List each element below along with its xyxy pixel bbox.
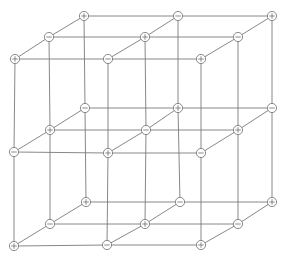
depth-edge (201, 37, 238, 59)
vertical-edge (178, 108, 180, 202)
cation-plus-icon (81, 197, 90, 206)
depth-edge (238, 202, 272, 224)
anion-minus-icon (45, 219, 54, 228)
anion-minus-icon (267, 103, 276, 112)
vertical-edge (49, 37, 50, 130)
cation-plus-icon (140, 32, 149, 41)
depth-edge (145, 16, 178, 37)
vertical-edge (145, 37, 146, 130)
cation-plus-icon (10, 54, 19, 63)
depth-edge (50, 108, 85, 130)
depth-edge (238, 108, 272, 130)
anion-minus-icon (103, 54, 112, 63)
crystal-lattice-diagram (0, 0, 287, 257)
cation-plus-icon (140, 219, 149, 228)
anion-minus-icon (80, 103, 89, 112)
depth-edge (107, 224, 145, 245)
depth-edge (14, 224, 50, 246)
anion-minus-icon (9, 147, 18, 156)
vertical-edge (107, 153, 108, 245)
cation-plus-icon (267, 11, 276, 20)
depth-edge (238, 16, 272, 37)
depth-edge (201, 130, 238, 153)
cation-plus-icon (196, 54, 205, 63)
cation-plus-icon (103, 148, 112, 157)
cation-plus-icon (45, 125, 54, 134)
depth-edge (201, 224, 238, 245)
anion-minus-icon (173, 11, 182, 20)
vertical-edge (14, 59, 15, 152)
depth-edge (146, 108, 178, 130)
vertical-edge (85, 108, 86, 202)
depth-edge (14, 130, 50, 152)
vertical-edge (145, 130, 146, 224)
depth-edge (49, 16, 84, 37)
horizontal-edge (14, 245, 107, 246)
cation-plus-icon (9, 241, 18, 250)
cation-plus-icon (79, 11, 88, 20)
anion-minus-icon (233, 219, 242, 228)
anion-minus-icon (44, 32, 53, 41)
anion-minus-icon (233, 32, 242, 41)
anion-minus-icon (141, 125, 150, 134)
depth-edge (145, 202, 180, 224)
anion-minus-icon (196, 148, 205, 157)
cation-plus-icon (173, 103, 182, 112)
anion-minus-icon (175, 197, 184, 206)
cation-plus-icon (233, 125, 242, 134)
vertical-edge (84, 16, 85, 108)
cation-plus-icon (267, 197, 276, 206)
depth-edge (15, 37, 49, 59)
horizontal-edge (14, 152, 108, 153)
depth-edge (50, 202, 86, 224)
anion-minus-icon (102, 240, 111, 249)
depth-edge (108, 130, 146, 153)
depth-edge (108, 37, 145, 59)
cation-plus-icon (196, 240, 205, 249)
